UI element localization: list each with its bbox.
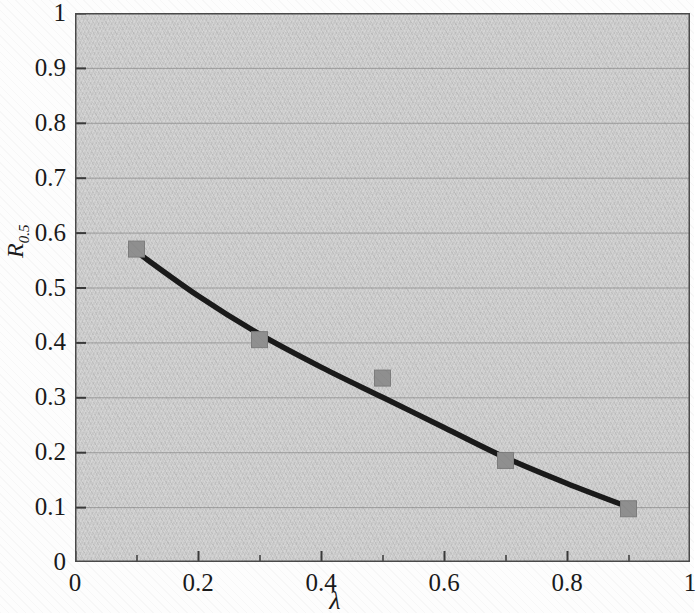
y-axis-title-main: R xyxy=(2,243,28,258)
y-axis-title: R0.5 xyxy=(2,225,33,258)
x-axis-title-label: λ xyxy=(329,586,340,613)
x-axis-title: λ xyxy=(0,588,694,613)
y-axis-title-subscript: 0.5 xyxy=(16,225,32,244)
